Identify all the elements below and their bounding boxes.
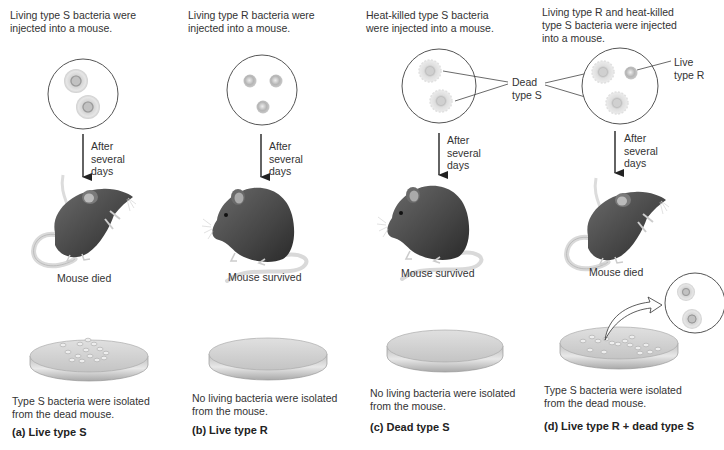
text-line: days <box>91 165 125 178</box>
mouse-died-illustration <box>567 178 669 269</box>
magnified-inset <box>665 273 724 333</box>
petri-dish-b <box>209 338 327 380</box>
callout-live-type-r: Live type R <box>674 56 704 81</box>
text-line: After <box>269 140 303 153</box>
text-line: type S <box>512 89 542 102</box>
petri-dish-d <box>560 273 724 369</box>
text-line: from the mouse. <box>192 405 337 418</box>
injection-circle-b <box>227 55 297 125</box>
text-line: days <box>624 157 658 170</box>
text-line: After <box>624 132 658 145</box>
isolation-description-c: No living bacteria were isolated from th… <box>370 387 515 413</box>
isolation-description-a: Type S bacteria were isolated from the d… <box>12 395 150 421</box>
text-line: Type S bacteria were isolated <box>12 395 150 408</box>
panel-label-c: (c) Dead type S <box>370 421 449 433</box>
text-line: Type S bacteria were isolated <box>544 384 682 397</box>
after-several-days-d: After several days <box>624 132 658 170</box>
griffith-experiment-illustration <box>0 0 724 450</box>
live-type-s-bacterium <box>76 95 100 119</box>
live-type-s-bacterium <box>64 69 88 93</box>
isolation-description-d: Type S bacteria were isolated from the d… <box>544 384 682 410</box>
text-line: Living type R and heat-killed <box>542 6 677 19</box>
isolation-description-b: No living bacteria were isolated from th… <box>192 392 337 418</box>
live-type-r-bacterium <box>625 67 638 80</box>
injection-description-d: Living type R and heat-killed type S bac… <box>542 6 677 45</box>
after-several-days-b: After several days <box>269 140 303 178</box>
text-line: Living type R bacteria were <box>188 9 315 22</box>
text-line: several <box>269 153 303 166</box>
dead-type-s-bacterium <box>592 61 614 83</box>
outcome-d: Mouse died <box>589 266 643 278</box>
text-line: from the dead mouse. <box>544 397 682 410</box>
text-line: Living type S bacteria were <box>10 9 136 22</box>
text-line: several <box>91 153 125 166</box>
injection-description-c: Heat-killed type S bacteria were injecte… <box>366 9 494 35</box>
mouse-survived-illustration <box>202 188 307 281</box>
text-line: No living bacteria were isolated <box>370 387 515 400</box>
petri-dish-a <box>30 338 148 381</box>
panel-label-b: (b) Live type R <box>192 424 268 436</box>
text-line: type S bacteria were injected <box>542 19 677 32</box>
live-type-r-bacterium <box>270 75 283 88</box>
outcome-b: Mouse survived <box>228 271 302 283</box>
live-type-r-bacterium <box>244 75 257 88</box>
text-line: days <box>447 159 481 172</box>
text-line: After <box>447 134 481 147</box>
injection-circle-a <box>48 59 118 129</box>
callout-dead-type-s: Dead type S <box>512 76 542 101</box>
outcome-a: Mouse died <box>57 272 111 284</box>
outcome-c: Mouse survived <box>401 267 475 279</box>
text-line: from the mouse. <box>370 400 515 413</box>
text-line: days <box>269 165 303 178</box>
mouse-survived-illustration <box>377 186 482 279</box>
dead-type-s-bacterium <box>606 92 628 114</box>
text-line: No living bacteria were isolated <box>192 392 337 405</box>
after-several-days-a: After several days <box>91 140 125 178</box>
dead-type-s-bacterium <box>419 60 441 82</box>
mouse-died-illustration <box>34 175 136 266</box>
live-type-r-bacterium <box>257 101 270 114</box>
text-line: Heat-killed type S bacteria <box>366 9 494 22</box>
text-line: into a mouse. <box>542 32 677 45</box>
text-line: Dead <box>512 76 542 89</box>
dead-type-s-bacterium <box>430 90 452 112</box>
text-line: several <box>447 147 481 160</box>
text-line: After <box>91 140 125 153</box>
text-line: Live <box>674 56 704 69</box>
text-line: were injected into a mouse. <box>366 22 494 35</box>
panel-label-d: (d) Live type R + dead type S <box>544 420 694 432</box>
petri-dish-c <box>387 330 503 372</box>
text-line: several <box>624 145 658 158</box>
injection-description-a: Living type S bacteria were injected int… <box>10 9 136 35</box>
injection-description-b: Living type R bacteria were injected int… <box>188 9 315 35</box>
panel-label-a: (a) Live type S <box>12 426 87 438</box>
after-several-days-c: After several days <box>447 134 481 172</box>
text-line: injected into a mouse. <box>10 22 136 35</box>
text-line: injected into a mouse. <box>188 22 315 35</box>
text-line: from the dead mouse. <box>12 408 150 421</box>
text-line: type R <box>674 69 704 82</box>
